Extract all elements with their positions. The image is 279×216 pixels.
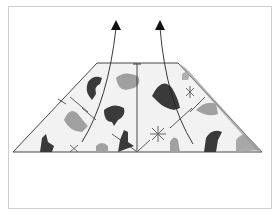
arrow-up-icon (155, 20, 165, 30)
fold-diagram (0, 0, 279, 216)
arrow-up-icon (111, 20, 121, 30)
